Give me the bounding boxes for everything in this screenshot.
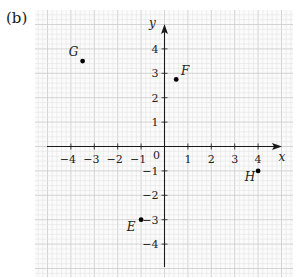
point-dot-icon bbox=[80, 59, 85, 64]
y-tick-label: −4 bbox=[142, 238, 158, 251]
point-label: E bbox=[126, 220, 136, 234]
x-tick-label: −3 bbox=[83, 153, 99, 166]
figure: (b) −4−3−2−11234−4−3−2−112340xy GFEH bbox=[0, 0, 296, 278]
x-tick-label: 3 bbox=[231, 153, 238, 166]
y-axis-label: y bbox=[148, 16, 156, 30]
point-label: F bbox=[180, 64, 190, 78]
origin-label: 0 bbox=[153, 149, 160, 162]
x-axis-label: x bbox=[279, 150, 286, 164]
y-tick-label: −2 bbox=[142, 189, 158, 202]
y-tick-label: 4 bbox=[152, 43, 159, 56]
y-tick-label: 2 bbox=[152, 92, 159, 105]
x-tick-label: 1 bbox=[184, 153, 191, 166]
y-tick-label: −1 bbox=[142, 165, 158, 178]
point-dot-icon bbox=[174, 77, 179, 82]
y-tick-label: −3 bbox=[142, 214, 158, 227]
x-tick-label: 2 bbox=[208, 153, 215, 166]
point-label: H bbox=[244, 170, 256, 184]
point-label: G bbox=[69, 45, 79, 59]
x-tick-label: −4 bbox=[60, 153, 76, 166]
y-tick-label: 1 bbox=[152, 116, 159, 129]
x-tick-label: −2 bbox=[107, 153, 123, 166]
point-dot-icon bbox=[256, 169, 261, 174]
x-tick-label: −1 bbox=[130, 153, 146, 166]
x-tick-label: 4 bbox=[255, 153, 262, 166]
y-tick-label: 3 bbox=[152, 67, 159, 80]
point-dot-icon bbox=[139, 217, 144, 222]
coordinate-plane: −4−3−2−11234−4−3−2−112340xy GFEH bbox=[0, 0, 296, 278]
